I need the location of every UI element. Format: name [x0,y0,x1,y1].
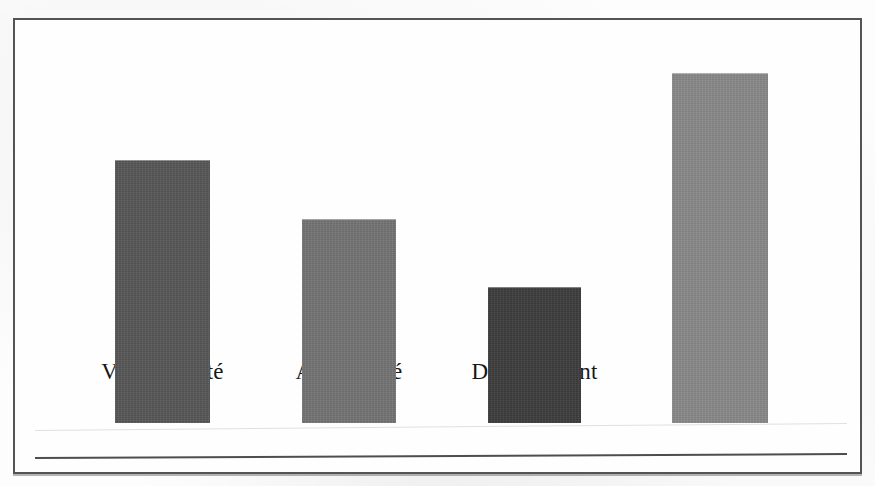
bar-derangement[interactable] [488,287,581,423]
bar-agressivite[interactable] [302,219,396,423]
bar-vulnerabilite[interactable] [115,160,210,423]
chart-frame: Vulnérabilité 75 % Agressivité 58 % Déra… [13,18,862,474]
plot-area: Vulnérabilité 75 % Agressivité 58 % Déra… [15,20,860,472]
baseline-axis [35,453,847,459]
baseline-ghost-line [35,423,847,431]
bar-total[interactable] [672,73,768,423]
chart-canvas: Vulnérabilité 75 % Agressivité 58 % Déra… [0,0,875,486]
